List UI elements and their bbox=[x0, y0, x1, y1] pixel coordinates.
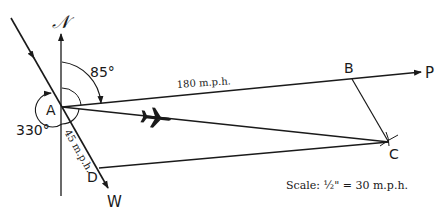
point-b-label: B bbox=[344, 60, 354, 76]
airplane-icon bbox=[140, 106, 172, 129]
scale-label: Scale: ½" = 30 m.p.h. bbox=[286, 179, 408, 192]
windspeed-label: 45 m.p.h. bbox=[62, 128, 95, 175]
point-p-label: P bbox=[425, 64, 434, 82]
point-a-label: A bbox=[46, 102, 56, 118]
heading-vector-ap bbox=[62, 72, 421, 107]
angle-330-label: 330° bbox=[16, 122, 50, 138]
north-label: 𝒩 bbox=[52, 11, 75, 32]
point-c-label: C bbox=[389, 146, 399, 162]
angle-85-label: 85° bbox=[90, 64, 115, 80]
wind-vector-ad bbox=[62, 107, 108, 188]
ground-track-ac bbox=[62, 107, 389, 142]
airspeed-label: 180 m.p.h. bbox=[176, 75, 231, 90]
line-dc bbox=[99, 142, 389, 168]
angle-arc-inner bbox=[62, 88, 81, 105]
navigation-vector-diagram: 𝒩 85° 330° A B P C D W 180 m.p.h. 45 m.p… bbox=[0, 0, 447, 218]
line-bc bbox=[352, 79, 388, 141]
wind-arrow-tick bbox=[30, 52, 34, 58]
point-w-label: W bbox=[107, 193, 122, 211]
